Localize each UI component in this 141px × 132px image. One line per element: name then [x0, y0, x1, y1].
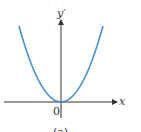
x-axis-label: x — [119, 95, 126, 108]
parabola-diagram: y′ x 0 (a) — [0, 0, 141, 132]
y-axis-label: y′ — [56, 7, 66, 20]
origin-label: 0 — [53, 105, 60, 118]
caption: (a) — [53, 126, 68, 132]
